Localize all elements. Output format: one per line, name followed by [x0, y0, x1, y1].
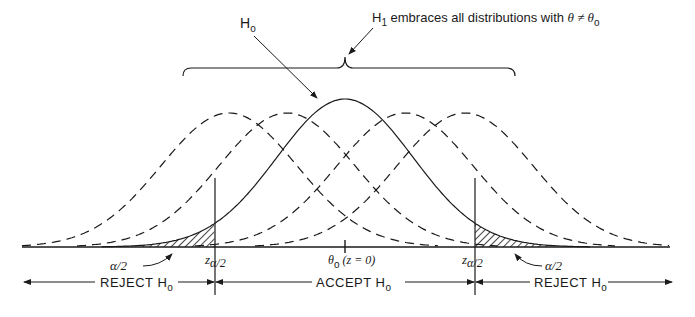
z-crit-right-label: zα/2 [461, 252, 483, 270]
h1-brace [183, 57, 515, 76]
h1-pointer-arrow [349, 28, 373, 54]
accept-label: ACCEPT Ho [316, 275, 392, 293]
alternative-distribution-curve [22, 113, 438, 246]
alpha-half-right-label: α/2 [545, 258, 562, 273]
hypothesis-test-diagram: Ho H1 embraces all distributions with θ … [0, 0, 695, 317]
reject-left-label: REJECT Ho [100, 275, 173, 293]
alpha-right-pointer [515, 254, 542, 266]
alternative-distribution-curve [77, 113, 497, 246]
h0-pointer-arrow [254, 36, 317, 98]
h1-label: H1 embraces all distributions with θ ≠ θ… [372, 10, 600, 28]
alpha-left-pointer [143, 254, 172, 266]
null-distribution-curve [102, 99, 590, 247]
alternative-distribution-curve [195, 113, 615, 246]
rejection-region-left [140, 224, 215, 247]
reject-right-label: REJECT Ho [534, 275, 607, 293]
alternative-distribution-curve [255, 113, 669, 246]
alpha-half-left-label: α/2 [110, 258, 127, 273]
rejection-region-right [475, 223, 550, 247]
h0-label: Ho [240, 15, 256, 34]
alternative-distributions [22, 113, 669, 246]
center-label: θo (z = 0) [328, 253, 375, 270]
